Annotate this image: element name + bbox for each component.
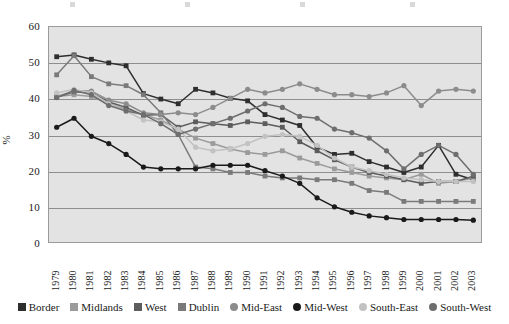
- data-point-square: [349, 181, 354, 186]
- data-point-circle: [401, 217, 406, 222]
- data-point-circle: [384, 215, 389, 220]
- x-axis-labels: 1979198019811982198319841985198619871988…: [48, 245, 482, 291]
- y-tick-label: 10: [29, 201, 40, 212]
- data-point-circle: [471, 89, 476, 94]
- data-point-square: [401, 199, 406, 204]
- data-point-circle: [436, 143, 441, 148]
- data-point-square: [419, 165, 424, 170]
- legend-item-west[interactable]: West: [134, 302, 167, 313]
- data-point-circle: [141, 164, 146, 169]
- data-point-square: [211, 91, 216, 96]
- legend-item-mid-east[interactable]: Mid-East: [230, 302, 282, 313]
- x-tick-label: 1986: [172, 270, 182, 291]
- series-south-west: [54, 88, 476, 177]
- y-tick-label: 20: [29, 165, 40, 176]
- data-point-circle: [54, 95, 59, 100]
- x-tick-label: 1999: [398, 270, 408, 291]
- data-point-circle: [158, 121, 163, 126]
- data-point-square: [141, 92, 146, 97]
- data-point-square: [176, 101, 181, 106]
- x-tick-label: 1993: [294, 270, 304, 291]
- data-point-circle: [262, 101, 267, 106]
- y-axis-title: %: [0, 135, 12, 144]
- data-point-square: [471, 199, 476, 204]
- x-tick-label: 1987: [190, 270, 200, 291]
- data-point-circle: [419, 217, 424, 222]
- x-tick-label: 1989: [224, 270, 234, 291]
- data-point-square: [124, 63, 129, 68]
- data-point-circle: [210, 105, 215, 110]
- data-point-circle: [193, 112, 198, 117]
- data-point-circle: [193, 145, 198, 150]
- data-point-square: [193, 136, 198, 141]
- legend-label: Mid-West: [304, 302, 348, 313]
- data-point-square: [245, 150, 250, 155]
- legend-item-south-west[interactable]: South-West: [429, 302, 491, 313]
- x-tick-label: 1984: [137, 270, 147, 291]
- data-point-square: [349, 170, 354, 175]
- data-point-circle: [471, 218, 476, 223]
- data-point-circle: [71, 116, 76, 121]
- data-point-square: [332, 166, 337, 171]
- data-point-circle: [124, 101, 129, 106]
- data-point-circle: [280, 105, 285, 110]
- data-point-circle: [297, 181, 302, 186]
- data-point-square: [158, 97, 163, 102]
- data-point-circle: [141, 112, 146, 117]
- data-point-square: [72, 53, 77, 58]
- data-point-circle: [401, 83, 406, 88]
- clipped-top-strip: [0, 0, 509, 10]
- legend-label: Dublin: [189, 302, 220, 313]
- data-point-circle: [349, 92, 354, 97]
- data-point-square: [280, 125, 285, 130]
- data-point-circle: [436, 179, 441, 184]
- data-point-circle: [176, 110, 181, 115]
- data-point-circle: [210, 121, 215, 126]
- data-point-square: [106, 60, 111, 65]
- data-point-circle: [453, 87, 458, 92]
- data-point-circle: [106, 103, 111, 108]
- x-tick-label: 2000: [415, 270, 425, 291]
- data-point-circle: [245, 163, 250, 168]
- legend-circle-icon: [230, 303, 238, 311]
- data-point-circle: [54, 125, 59, 130]
- legend-item-south-east[interactable]: South-East: [359, 302, 418, 313]
- data-point-circle: [297, 81, 302, 86]
- data-point-square: [280, 118, 285, 123]
- data-point-circle: [471, 172, 476, 177]
- data-point-circle: [332, 92, 337, 97]
- x-tick-label: 1996: [346, 270, 356, 291]
- data-point-circle: [228, 163, 233, 168]
- legend-circle-icon: [359, 303, 367, 311]
- legend-item-midlands[interactable]: Midlands: [70, 302, 123, 313]
- data-point-square: [245, 170, 250, 175]
- data-point-square: [297, 123, 302, 128]
- data-point-square: [211, 141, 216, 146]
- data-point-square: [263, 152, 268, 157]
- data-point-circle: [262, 134, 267, 139]
- data-point-square: [280, 148, 285, 153]
- data-point-circle: [384, 172, 389, 177]
- series-mid-east: [54, 81, 476, 117]
- legend-label: Mid-East: [241, 302, 282, 313]
- data-point-circle: [158, 166, 163, 171]
- legend-item-mid-west[interactable]: Mid-West: [293, 302, 348, 313]
- clipped-legend-tick-3: [410, 2, 415, 7]
- legend-square-icon: [134, 303, 142, 311]
- legend-label: South-West: [440, 302, 491, 313]
- data-point-circle: [176, 126, 181, 131]
- data-point-circle: [176, 166, 181, 171]
- data-point-circle: [228, 146, 233, 151]
- data-point-circle: [54, 90, 59, 95]
- data-point-square: [297, 139, 302, 144]
- data-point-circle: [89, 134, 94, 139]
- data-point-circle: [245, 108, 250, 113]
- legend-item-dublin[interactable]: Dublin: [178, 302, 220, 313]
- data-point-square: [454, 172, 459, 177]
- legend-square-icon: [178, 303, 186, 311]
- legend-item-border[interactable]: Border: [18, 302, 60, 313]
- x-tick-label: 2002: [450, 270, 460, 291]
- data-point-square: [193, 87, 198, 92]
- data-point-circle: [401, 166, 406, 171]
- data-point-circle: [384, 148, 389, 153]
